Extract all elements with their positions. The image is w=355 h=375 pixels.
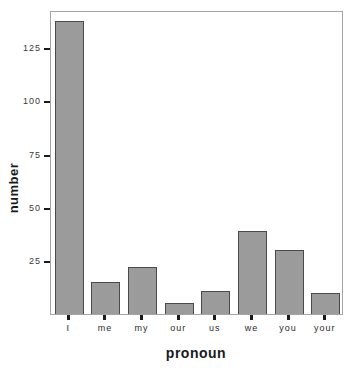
x-tick-label-my: my <box>135 323 149 333</box>
x-tick-mark-we <box>250 315 253 320</box>
y-tick-mark-100 <box>44 101 50 103</box>
bar-me <box>91 282 120 314</box>
x-tick-mark-me <box>103 315 106 320</box>
y-tick-mark-75 <box>44 155 50 157</box>
y-tick-mark-50 <box>44 208 50 210</box>
bar-you <box>275 250 304 314</box>
plot-area <box>50 11 343 315</box>
bar-I <box>55 21 84 314</box>
bar-chart: 255075100125 Imemyourusweyouyour number … <box>0 0 355 375</box>
bar-your <box>311 293 340 314</box>
y-tick-label-75: 75 <box>11 150 41 160</box>
x-tick-mark-you <box>287 315 290 320</box>
x-tick-mark-us <box>213 315 216 320</box>
x-tick-label-I: I <box>67 323 71 333</box>
y-axis-title: number <box>6 163 21 214</box>
x-tick-label-you: you <box>279 323 297 333</box>
x-tick-label-our: our <box>170 323 186 333</box>
y-tick-mark-25 <box>44 261 50 263</box>
x-tick-mark-I <box>67 315 70 320</box>
y-tick-mark-125 <box>44 48 50 50</box>
x-tick-label-me: me <box>98 323 113 333</box>
x-tick-mark-your <box>323 315 326 320</box>
x-tick-label-your: your <box>314 323 336 333</box>
bar-we <box>238 231 267 314</box>
x-axis-title: pronoun <box>166 345 226 361</box>
y-tick-label-25: 25 <box>11 256 41 266</box>
x-tick-label-we: we <box>245 323 259 333</box>
x-tick-label-us: us <box>209 323 221 333</box>
bar-my <box>128 267 157 314</box>
bar-our <box>165 303 194 314</box>
x-tick-mark-my <box>140 315 143 320</box>
y-tick-label-125: 125 <box>11 43 41 53</box>
y-tick-label-100: 100 <box>11 96 41 106</box>
x-tick-mark-our <box>177 315 180 320</box>
bar-us <box>201 291 230 314</box>
